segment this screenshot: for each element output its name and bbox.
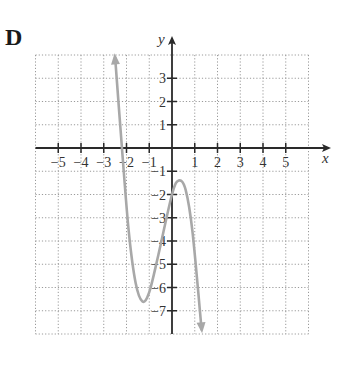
x-tick-label: −4 <box>74 155 89 170</box>
y-tick-label: −2 <box>151 188 166 203</box>
x-axis-label: x <box>321 150 329 166</box>
function-graph: xy−5−4−3−2−112345321−1−2−3−4−5−6−7 <box>0 0 351 375</box>
y-tick-label: 2 <box>159 95 166 110</box>
y-tick-label: −3 <box>151 211 166 226</box>
y-tick-label: 1 <box>159 118 166 133</box>
tick-labels: xy−5−4−3−2−112345321−1−2−3−4−5−6−7 <box>51 31 329 319</box>
x-tick-label: 2 <box>214 155 221 170</box>
y-axis-label: y <box>156 31 165 47</box>
y-tick-label: −1 <box>151 164 166 179</box>
x-tick-label: 3 <box>237 155 244 170</box>
x-tick-label: 5 <box>282 155 289 170</box>
curve-arrow-down-icon <box>197 322 206 333</box>
x-tick-label: 1 <box>191 155 198 170</box>
x-tick-label: −2 <box>119 155 134 170</box>
y-tick-label: −7 <box>151 304 166 319</box>
x-tick-label: −3 <box>96 155 111 170</box>
x-tick-label: 4 <box>260 155 267 170</box>
y-tick-label: −6 <box>151 281 166 296</box>
y-tick-label: 3 <box>159 71 166 86</box>
x-tick-label: −5 <box>51 155 66 170</box>
